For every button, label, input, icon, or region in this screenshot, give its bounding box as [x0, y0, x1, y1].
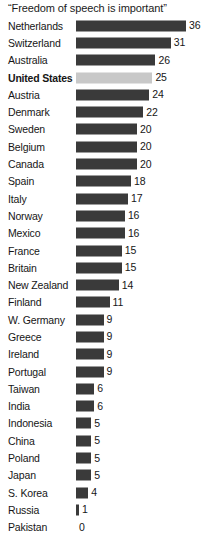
bar-row-label: Russia [8, 504, 39, 515]
bar-value-label: 9 [107, 331, 113, 342]
bar [76, 107, 143, 118]
bar-row-label: Greece [8, 331, 42, 342]
bar-row-label: Poland [8, 453, 40, 464]
bar-value-label: 26 [158, 55, 169, 66]
bar-value-label: 31 [174, 37, 185, 48]
bar [76, 331, 104, 342]
bar-row-label: China [8, 435, 35, 446]
bar-row-label: United States [8, 72, 73, 83]
bar-row: Taiwan6 [0, 380, 216, 397]
bar [76, 314, 104, 325]
bar-row: Sweden20 [0, 121, 216, 138]
bar-row-label: Portugal [8, 366, 46, 377]
bar-value-label: 20 [140, 141, 151, 152]
bar-track: 31 [76, 37, 216, 48]
bar [76, 193, 128, 204]
bar-row: United States25 [0, 69, 216, 86]
bar-row: Denmark22 [0, 103, 216, 120]
bar-value-label: 6 [97, 401, 103, 412]
bar-row: Mexico16 [0, 225, 216, 242]
bar [76, 141, 137, 152]
bar-row-label: France [8, 245, 40, 256]
bar-row: Ireland9 [0, 346, 216, 363]
bar-track: 11 [76, 297, 216, 308]
bar-row: W. Germany9 [0, 311, 216, 328]
bar-track: 5 [76, 435, 216, 446]
bar-track: 9 [76, 331, 216, 342]
bar-row: Pakistan0 [0, 519, 216, 535]
bar-row: Russia1 [0, 501, 216, 518]
bar [76, 487, 88, 498]
bar-track: 25 [76, 72, 216, 83]
bar [76, 210, 125, 221]
bar-row-label: Ireland [8, 349, 39, 360]
bar [76, 176, 131, 187]
bar-row: Norway16 [0, 207, 216, 224]
bar-rows: Netherlands36Switzerland31Australia26Uni… [0, 17, 216, 535]
bar-row: S. Korea4 [0, 484, 216, 501]
bar [76, 124, 137, 135]
bar-row-label: Taiwan [8, 383, 40, 394]
bar-track: 18 [76, 176, 216, 187]
bar-value-label: 4 [91, 487, 97, 498]
bar-row-label: Belgium [8, 141, 45, 152]
bar-row-label: W. Germany [8, 314, 65, 325]
bar-row-label: Britain [8, 262, 37, 273]
bar-value-label: 15 [125, 245, 136, 256]
bar-value-label: 9 [107, 366, 113, 377]
bar-track: 26 [76, 55, 216, 66]
bar-track: 22 [76, 107, 216, 118]
bar-track: 9 [76, 366, 216, 377]
bar-track: 4 [76, 487, 216, 498]
bar-row: India6 [0, 398, 216, 415]
bar-row-label: Italy [8, 193, 27, 204]
bar [76, 504, 79, 515]
bar-row-label: Austria [8, 89, 40, 100]
bar-track: 5 [76, 453, 216, 464]
bar [76, 418, 91, 429]
bar-row: New Zealand14 [0, 276, 216, 293]
bar-value-label: 18 [134, 176, 145, 187]
bar-track: 0 [76, 522, 216, 533]
bar-row-label: New Zealand [8, 280, 68, 291]
bar-track: 20 [76, 159, 216, 170]
bar [76, 383, 94, 394]
bar-row-label: Sweden [8, 124, 45, 135]
bar-row-label: Indonesia [8, 418, 52, 429]
bar [76, 245, 122, 256]
bar [76, 453, 91, 464]
bar-row: Spain18 [0, 173, 216, 190]
bar-row-label: Switzerland [8, 37, 61, 48]
bar-track: 6 [76, 401, 216, 412]
bar-track: 15 [76, 262, 216, 273]
bar-track: 16 [76, 210, 216, 221]
bar [76, 401, 94, 412]
bar-track: 20 [76, 124, 216, 135]
bar-row-label: Pakistan [8, 522, 47, 533]
bar-track: 9 [76, 349, 216, 360]
bar-value-label: 0 [79, 522, 85, 533]
bar-value-label: 1 [82, 504, 88, 515]
bar-row: Australia26 [0, 52, 216, 69]
bar-row: Portugal9 [0, 363, 216, 380]
bar [76, 470, 91, 481]
bar-track: 16 [76, 228, 216, 239]
bar-row: Finland11 [0, 294, 216, 311]
bar-value-label: 14 [122, 280, 133, 291]
bar-track: 24 [76, 89, 216, 100]
bar-value-label: 22 [146, 107, 157, 118]
chart-title: “Freedom of speech is important” [8, 2, 167, 15]
bar-value-label: 16 [128, 228, 139, 239]
bar-row-label: Australia [8, 55, 48, 66]
bar [76, 89, 149, 100]
bar-value-label: 5 [94, 418, 100, 429]
bar [76, 349, 104, 360]
bar [76, 55, 155, 66]
bar-row: Indonesia5 [0, 415, 216, 432]
bar-track: 14 [76, 280, 216, 291]
bar-row-label: Mexico [8, 228, 40, 239]
bar-track: 5 [76, 418, 216, 429]
bar-track: 5 [76, 470, 216, 481]
bar-row: Poland5 [0, 449, 216, 466]
